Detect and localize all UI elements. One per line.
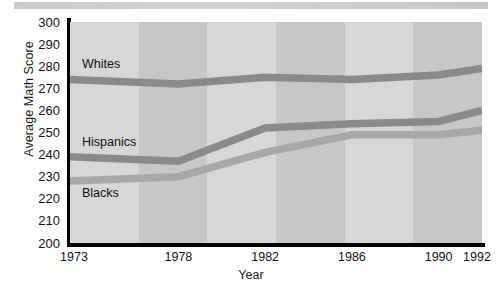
series-lines: [70, 22, 482, 243]
y-tick-label: 300: [26, 16, 60, 29]
x-tick-label: 1982: [240, 250, 290, 264]
x-tick-label: 1992: [452, 250, 502, 264]
series-label-hispanics: Hispanics: [82, 135, 136, 149]
top-banner: [14, 2, 488, 9]
y-tick-label: 240: [26, 148, 60, 161]
y-tick-label: 280: [26, 60, 60, 73]
series-line-whites: [70, 68, 482, 83]
y-tick-label: 290: [26, 38, 60, 51]
y-tick-label: 260: [26, 104, 60, 117]
plot-area: [70, 22, 482, 243]
series-label-blacks: Blacks: [82, 186, 119, 200]
series-label-whites: Whites: [82, 57, 120, 71]
x-axis-line: [67, 243, 485, 247]
x-tick-label: 1986: [327, 250, 377, 264]
y-tick-label: 210: [26, 214, 60, 227]
x-tick-label: 1973: [49, 250, 99, 264]
y-tick-label: 200: [26, 237, 60, 250]
math-score-line-chart: Average Math Score 300290280270260250240…: [0, 0, 502, 291]
x-tick-label: 1978: [153, 250, 203, 264]
y-tick-label: 270: [26, 82, 60, 95]
x-axis-title: Year: [0, 268, 502, 282]
y-tick-label: 220: [26, 192, 60, 205]
y-tick-label: 250: [26, 126, 60, 139]
y-tick-label: 230: [26, 170, 60, 183]
